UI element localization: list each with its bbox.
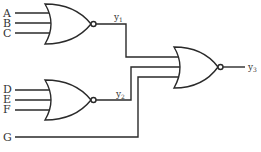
nor-gate-3-body [174, 47, 218, 88]
input-label-f: F [3, 103, 11, 116]
nor-gate-2-body [45, 80, 91, 120]
nor-gate-1-bubble [91, 22, 96, 27]
output-label-y2: y2 [115, 89, 125, 100]
output-label-y1: y1 [113, 12, 123, 23]
nor-gate-2-bubble [91, 98, 96, 103]
input-label-c: C [3, 27, 11, 40]
nor-gate-3-bubble [218, 65, 223, 70]
nor-gate-2 [45, 80, 96, 120]
nor-gate-1-body [45, 4, 91, 44]
logic-circuit-diagram: A B C y1 D E F y2 G y3 [0, 0, 261, 152]
output-label-y3: y3 [247, 62, 257, 73]
input-label-g: G [3, 131, 12, 144]
wire-g [15, 77, 179, 137]
nor-gate-1 [45, 4, 96, 44]
nor-gate-3 [174, 47, 223, 88]
wire-y1 [96, 24, 179, 57]
